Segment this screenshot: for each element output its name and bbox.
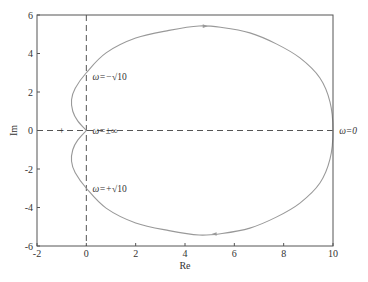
annotation-root: √10 [112,184,127,194]
annotation-omega-neg-sqrt10: ω=−√10 [93,72,127,82]
y-tick-label: 0 [28,125,33,136]
y-tick-label: 6 [28,10,33,21]
direction-arrow-icon [203,24,208,28]
x-tick-label: 4 [183,248,188,259]
annotation-omega-zero: ω=0 [339,126,357,136]
x-tick-label: 8 [281,248,286,259]
critical-point-marker: + [59,125,65,136]
annotation-omega-pos-sqrt10: ω=+√10 [93,184,127,194]
annotation-text: ω=0 [339,126,357,136]
x-tick-label: -2 [33,248,41,259]
x-axis-label: Re [179,260,191,271]
y-tick-label: -6 [25,241,33,252]
annotation-text: ω=±∞ [93,126,118,136]
x-tick-label: 10 [328,248,338,259]
y-tick-label: 4 [28,48,33,59]
annotations: ω=−√10ω=±∞ω=+√10ω=0 [93,72,358,194]
x-tick-label: 2 [133,248,138,259]
axis-ticks: -20246810-6-4-20246 [25,10,338,260]
annotation-omega-pm-inf: ω=±∞ [93,126,118,136]
nyquist-chart: + -20246810-6-4-20246 ω=−√10ω=±∞ω=+√10ω=… [0,0,368,282]
y-tick-label: -4 [25,202,33,213]
marker-layer: + [59,125,65,136]
x-tick-label: 0 [84,248,89,259]
annotation-prefix: ω=− [93,72,113,82]
x-tick-label: 6 [232,248,237,259]
direction-arrow-icon [212,232,217,236]
y-tick-label: 2 [28,87,33,98]
y-axis-label: Im [8,125,19,136]
annotation-prefix: ω=+ [93,184,113,194]
annotation-root: √10 [112,72,127,82]
reference-lines [37,15,333,246]
y-tick-label: -2 [25,164,33,175]
